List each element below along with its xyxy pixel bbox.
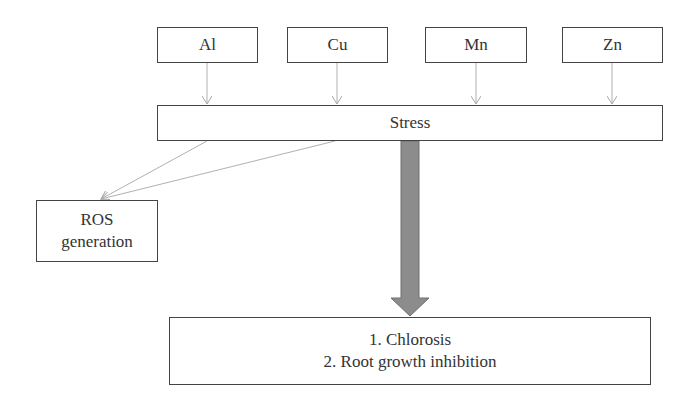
effects-box: 1. Chlorosis 2. Root growth inhibition [169, 317, 651, 385]
arrow-stress-to-ros-1 [101, 141, 207, 199]
metal-box-mn: Mn [425, 27, 527, 63]
metal-label: Mn [464, 34, 488, 56]
big-arrow-stress-to-effects [391, 141, 429, 316]
effect-item-root-growth-inhibition: 2. Root growth inhibition [324, 351, 497, 373]
metal-label: Cu [328, 34, 348, 56]
metal-box-cu: Cu [287, 27, 388, 63]
metal-label: Al [199, 34, 216, 56]
metal-label: Zn [603, 34, 622, 56]
ros-label-line2: generation [61, 231, 133, 253]
metal-box-zn: Zn [562, 27, 663, 63]
effect-item-chlorosis: 1. Chlorosis [369, 329, 451, 351]
metal-box-al: Al [157, 27, 258, 63]
ros-label-line1: ROS [80, 209, 113, 231]
stress-box: Stress [157, 105, 663, 141]
arrow-stress-to-ros-2 [101, 141, 335, 199]
stress-label: Stress [390, 112, 431, 134]
ros-generation-box: ROS generation [36, 200, 158, 262]
